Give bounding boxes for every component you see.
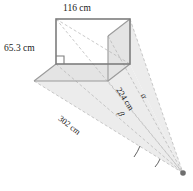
diagram-canvas: 116 cm 65.3 cm 224 cm 302 cm α β <box>0 0 193 191</box>
width-label: 116 cm <box>63 4 91 14</box>
height-label: 65.3 cm <box>4 44 35 54</box>
alpha-arc <box>155 159 160 167</box>
viewpoint-dot <box>180 170 186 176</box>
beta-arc <box>134 146 140 157</box>
geometry-figure <box>0 0 193 191</box>
right-angle-marker <box>56 56 64 64</box>
